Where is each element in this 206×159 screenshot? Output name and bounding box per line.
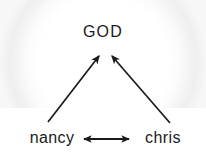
edge-nancy-to-god	[48, 56, 99, 122]
diagram-canvas: GOD nancy chris	[0, 0, 206, 159]
node-label-chris: chris	[120, 129, 206, 147]
edge-chris-to-god	[112, 56, 170, 123]
node-label-god: GOD	[0, 23, 206, 41]
node-label-nancy: nancy	[0, 129, 104, 147]
